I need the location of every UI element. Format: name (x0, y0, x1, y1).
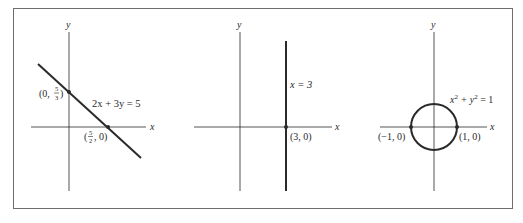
x-axis-label: x (334, 121, 340, 132)
svg-text:(: ( (84, 131, 88, 143)
y-axis-label: y (65, 19, 71, 30)
graph-figure: x y 2x + 3y = 5 (0, 5 3 ) ( 5 2 , 0) x y (0, 0, 523, 223)
right-intercept-point (455, 125, 459, 129)
equation-label: x = 3 (289, 79, 312, 90)
svg-text:3: 3 (55, 94, 58, 101)
y-axis-label: y (430, 19, 436, 30)
panel-line: x y 2x + 3y = 5 (0, 5 3 ) ( 5 2 , 0) (31, 19, 155, 191)
svg-text:(0,: (0, (39, 88, 50, 100)
y-intercept-point (67, 90, 71, 94)
right-intercept-label: (1, 0) (459, 131, 481, 143)
x-axis-label: x (149, 121, 155, 132)
x-intercept-label: ( 5 2 , 0) (84, 129, 107, 145)
panel-vertical-line: x y x = 3 (3, 0) (194, 19, 340, 191)
svg-text:2: 2 (89, 137, 92, 144)
equation-label: 2x + 3y = 5 (92, 98, 141, 109)
left-intercept-label: (−1, 0) (378, 131, 405, 143)
figure-frame (14, 9, 513, 209)
svg-text:, 0): , 0) (94, 131, 107, 143)
x-intercept-point (106, 125, 110, 129)
x-intercept-label: (3, 0) (290, 131, 312, 143)
y-axis-label: y (236, 19, 242, 30)
equation-label: x2 + y2 = 1 (449, 93, 493, 105)
svg-text:5: 5 (89, 129, 92, 136)
panel-circle: x y x2 + y2 = 1 (−1, 0) (1, 0) (378, 19, 495, 191)
left-intercept-point (409, 125, 413, 129)
y-intercept-label: (0, 5 3 ) (39, 85, 63, 101)
x-axis-label: x (489, 121, 495, 132)
x-intercept-point (284, 125, 288, 129)
svg-text:5: 5 (55, 85, 58, 92)
svg-text:): ) (60, 88, 63, 100)
